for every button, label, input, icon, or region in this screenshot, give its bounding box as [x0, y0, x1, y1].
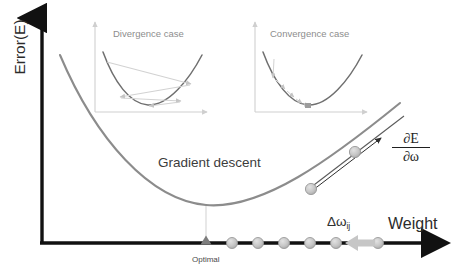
delta-omega-symbol: Δω: [327, 214, 347, 229]
diagram-canvas: [0, 0, 457, 276]
curve-ball-upper: [349, 146, 360, 157]
axis-ball: [253, 238, 264, 249]
curve-ball-lower: [305, 183, 316, 194]
axis-ball: [331, 238, 342, 249]
error-curve: [60, 55, 400, 205]
delta-omega-label: Δωij: [327, 214, 350, 231]
gradient-descent-label: Gradient descent: [158, 155, 261, 170]
inset-divergence-curve: [103, 52, 202, 105]
axis-ball: [227, 238, 238, 249]
gradient-arrow: [313, 138, 381, 190]
inset-convergence-curve: [263, 52, 362, 105]
inset-convergence-title: Convergence case: [270, 28, 349, 39]
axis-ball: [305, 238, 316, 249]
optimal-triangle-marker: [201, 236, 212, 245]
delta-omega-subscript: ij: [347, 221, 350, 231]
optimal-label: Optimal: [192, 255, 220, 264]
x-axis-label: Weight: [388, 215, 438, 233]
derivative-denominator: ∂ω: [390, 148, 432, 164]
gradient-descent-diagram: Error(E) Weight Gradient descent Optimal…: [0, 0, 457, 276]
axis-ball: [279, 238, 290, 249]
inset-divergence-title: Divergence case: [113, 28, 184, 39]
delta-omega-arrow: [345, 235, 375, 251]
partial-derivative-label: ∂E ∂ω: [390, 131, 432, 164]
derivative-numerator: ∂E: [390, 131, 432, 147]
y-axis-label: Error(E): [11, 3, 29, 91]
